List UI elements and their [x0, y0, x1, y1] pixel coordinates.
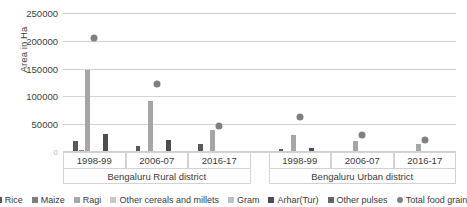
legend-item-arhar-tur[interactable]: Arhar(Tur): [268, 195, 318, 205]
y-axis-tick-label: 200000: [26, 35, 58, 46]
bar-arhar-tur: [103, 134, 108, 152]
datapoint-total-food-grain: [296, 113, 303, 120]
legend-item-other-cereals-and-millets[interactable]: Other cereals and millets: [110, 195, 219, 205]
square-swatch-icon: [74, 197, 80, 203]
y-axis-tick-label: 150000: [26, 63, 58, 74]
legend-label: Total food grain: [406, 195, 467, 205]
category-axis-labels: 1998-992006-072016-171998-992006-072016-…: [63, 152, 456, 169]
group-label-urban: Bengaluru Urban district: [269, 169, 457, 184]
group-label-rural: Bengaluru Rural district: [63, 169, 251, 184]
category-label-1998-99: 1998-99: [269, 152, 332, 169]
square-swatch-icon: [0, 197, 2, 203]
category-label-2006-07: 2006-07: [126, 152, 189, 169]
legend-label: Gram: [237, 195, 260, 205]
category-label-1998-99: 1998-99: [63, 152, 126, 169]
y-axis-tick-label: 100000: [26, 91, 58, 102]
datapoint-total-food-grain: [421, 136, 428, 143]
category-label-2016-17: 2016-17: [188, 152, 251, 169]
gridline: [63, 69, 456, 70]
chart-legend: RiceMaizeRagiOther cereals and milletsGr…: [0, 195, 463, 205]
legend-item-other-pulses[interactable]: Other pulses: [328, 195, 388, 205]
legend-label: Ragi: [83, 195, 102, 205]
category-label-2006-07: 2006-07: [331, 152, 394, 169]
square-swatch-icon: [228, 197, 234, 203]
legend-label: Rice: [5, 195, 23, 205]
legend-label: Arhar(Tur): [277, 195, 318, 205]
square-swatch-icon: [32, 197, 38, 203]
gridline: [63, 41, 456, 42]
legend-item-rice[interactable]: Rice: [0, 195, 23, 205]
legend-item-ragi[interactable]: Ragi: [74, 195, 102, 205]
bar-ragi: [210, 130, 215, 152]
gridline: [63, 96, 456, 97]
y-axis-tick-label: 0: [54, 148, 58, 157]
datapoint-total-food-grain: [216, 123, 223, 130]
legend-item-total-food-grain[interactable]: Total food grain: [397, 195, 467, 205]
category-label-2016-17: 2016-17: [394, 152, 457, 169]
bar-ragi: [148, 101, 153, 152]
legend-label: Other pulses: [337, 195, 388, 205]
datapoint-total-food-grain: [91, 35, 98, 42]
legend-label: Maize: [41, 195, 65, 205]
legend-item-gram[interactable]: Gram: [228, 195, 260, 205]
group-axis-labels: Bengaluru Rural districtBengaluru Urban …: [63, 169, 456, 184]
bar-ragi: [85, 70, 90, 152]
legend-label: Other cereals and millets: [119, 195, 219, 205]
legend-item-maize[interactable]: Maize: [32, 195, 65, 205]
circle-marker-icon: [397, 197, 403, 203]
plot-area: 050000100000150000200000250000: [63, 13, 456, 152]
bar-ragi: [291, 135, 296, 152]
datapoint-total-food-grain: [359, 132, 366, 139]
square-swatch-icon: [328, 197, 334, 203]
gridline: [63, 13, 456, 14]
square-swatch-icon: [110, 197, 116, 203]
datapoint-total-food-grain: [153, 81, 160, 88]
y-axis-tick-label: 50000: [32, 119, 58, 130]
gridline: [63, 124, 456, 125]
square-swatch-icon: [268, 197, 274, 203]
y-axis-tick-label: 250000: [26, 8, 58, 19]
